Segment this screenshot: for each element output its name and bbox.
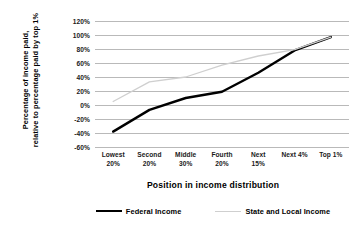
y-axis-tick-label: 80% xyxy=(58,46,90,53)
y-axis-tick-label: -60% xyxy=(58,144,90,151)
series-lines xyxy=(95,21,349,147)
y-axis-tick-label: 20% xyxy=(58,88,90,95)
legend-label-state-and-local-income: State and Local Income xyxy=(245,207,330,216)
x-axis-tick-labels: Lowest20%Second20%Middle30%Fourth20%Next… xyxy=(95,150,349,176)
legend-swatch-federal-income-icon xyxy=(96,210,122,212)
y-axis-title-line-1: Percentage of income paid, xyxy=(21,31,30,130)
y-axis-title-line-2: relative to percentage paid by top 1% xyxy=(31,13,40,147)
gridline xyxy=(95,147,349,148)
y-axis-tick-label: 100% xyxy=(58,32,90,39)
y-axis-title-text: Percentage of income paid, relative to p… xyxy=(21,13,41,147)
y-axis-tick-label: 40% xyxy=(58,74,90,81)
legend-entry-state-and-local-income: State and Local Income xyxy=(215,207,330,216)
x-axis-title: Position in income distribution xyxy=(62,180,364,190)
chart-container: Percentage of income paid, relative to p… xyxy=(0,0,364,227)
x-axis-tick-label: Top 1% xyxy=(308,150,354,159)
plot-area xyxy=(95,21,349,147)
legend-label-federal-income: Federal Income xyxy=(126,207,182,216)
y-axis-tick-label: 0% xyxy=(58,102,90,109)
y-axis-title: Percentage of income paid, relative to p… xyxy=(0,0,62,160)
y-axis-tick-label: -40% xyxy=(58,130,90,137)
y-axis-tick-label: -20% xyxy=(58,116,90,123)
y-axis-tick-labels: 120%100%80%60%40%20%0%-20%-40%-60% xyxy=(58,15,90,151)
legend-swatch-state-and-local-income-icon xyxy=(215,211,241,212)
legend-entry-federal-income: Federal Income xyxy=(96,207,182,216)
y-axis-tick-label: 120% xyxy=(58,18,90,25)
chart-legend: Federal Income State and Local Income xyxy=(62,202,364,220)
y-axis-tick-label: 60% xyxy=(58,60,90,67)
